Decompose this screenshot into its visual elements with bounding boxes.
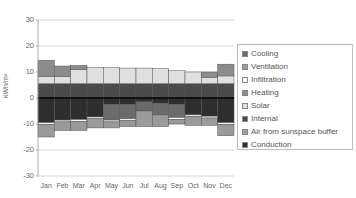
bar-segment-conduction — [185, 98, 201, 115]
bar-segment-infiltration — [71, 120, 87, 122]
bar-segment-infiltration — [185, 115, 201, 117]
y-tick-label: -20 — [0, 145, 34, 154]
bar-segment-ventilation — [103, 122, 119, 128]
bar-segment-ventilation — [152, 115, 168, 127]
bar-segment-cooling — [152, 103, 168, 115]
bar-segment-conduction — [87, 98, 103, 117]
x-tick-label: Sep — [169, 182, 185, 189]
x-tick-label: Oct — [185, 182, 201, 189]
x-tick-label: Dec — [218, 182, 234, 189]
bar-segment-infiltration — [120, 119, 136, 121]
y-tick-label: -30 — [0, 171, 34, 180]
legend-item: Internal — [242, 112, 352, 125]
legend-item: Infiltration — [242, 73, 352, 86]
bar-segment-solar — [201, 77, 217, 84]
bar-segment-ventilation — [201, 118, 217, 125]
bar-segment-ventilation — [87, 119, 103, 128]
bar-segment-solar — [152, 69, 168, 84]
bar-segment-internal — [54, 84, 70, 98]
bar-segment-solar — [169, 71, 185, 84]
legend-label: Solar — [251, 101, 270, 110]
bar-segment-ventilation — [185, 117, 201, 126]
bar-segment-internal — [87, 84, 103, 98]
legend-item: Conduction — [242, 138, 352, 151]
legend-swatch-icon — [242, 129, 248, 135]
bar-segment-infiltration — [103, 120, 119, 122]
legend-swatch-icon — [242, 77, 248, 83]
legend-label: Infiltration — [251, 75, 286, 84]
x-tick-label: Jun — [120, 182, 136, 189]
bar-segment-heating — [38, 60, 54, 76]
x-tick-label: Jan — [38, 182, 54, 189]
bar-segment-infiltration — [201, 116, 217, 118]
bar-segment-infiltration — [54, 120, 70, 122]
legend-label: Air from sunspace buffer — [251, 127, 338, 136]
bar-segment-internal — [152, 84, 168, 98]
bar-segment-internal — [120, 84, 136, 98]
bar-segment-conduction — [120, 98, 136, 105]
bar-segment-ventilation — [120, 121, 136, 127]
x-tick-label: May — [103, 182, 119, 189]
x-tick-label: Jul — [136, 182, 152, 189]
bar-segment-ventilation — [218, 125, 234, 136]
bar-segment-infiltration — [218, 123, 234, 125]
y-axis — [36, 20, 234, 176]
bar-segment-conduction — [54, 98, 70, 120]
legend-swatch-icon — [242, 103, 248, 109]
bar-segment-internal — [71, 84, 87, 98]
bar-segment-conduction — [218, 98, 234, 123]
bar-segment-internal — [103, 84, 119, 98]
legend: CoolingVentilationInfiltrationHeatingSol… — [237, 44, 353, 150]
bar-segment-solar — [54, 76, 70, 83]
bar-segment-ventilation — [136, 111, 152, 127]
legend-item: Cooling — [242, 47, 352, 60]
bar-segment-cooling — [136, 102, 152, 111]
bar-segment-cooling — [169, 105, 185, 118]
legend-label: Conduction — [251, 140, 291, 149]
x-tick-label: Nov — [201, 182, 217, 189]
bar-segment-ventilation — [38, 125, 54, 137]
bar-segment-cooling — [103, 105, 119, 121]
legend-label: Ventilation — [251, 62, 288, 71]
bar-segment-heating — [71, 66, 87, 70]
bar-segment-internal — [38, 84, 54, 98]
legend-swatch-icon — [242, 90, 248, 96]
legend-swatch-icon — [242, 51, 248, 57]
legend-item: Air from sunspace buffer — [242, 125, 352, 138]
x-tick-label: Aug — [152, 182, 168, 189]
bar-segment-internal — [185, 84, 201, 98]
bar-segment-solar — [38, 76, 54, 83]
bar-segment-solar — [103, 68, 119, 84]
y-tick-label: 20 — [0, 41, 34, 50]
bar-segment-ventilation — [54, 122, 70, 131]
bar-segment-conduction — [71, 98, 87, 120]
bar-segment-internal — [169, 84, 185, 98]
bar-segment-internal — [136, 84, 152, 98]
bar-segment-internal — [201, 84, 217, 98]
bar-segment-solar — [71, 69, 87, 83]
bar-segment-infiltration — [169, 118, 185, 120]
x-tick-label: Mar — [71, 182, 87, 189]
legend-swatch-icon — [242, 142, 248, 148]
bar-segment-infiltration — [87, 117, 103, 119]
y-tick-label: 30 — [0, 15, 34, 24]
x-tick-label: Feb — [54, 182, 70, 189]
bar-segment-solar — [120, 68, 136, 84]
bar-segment-solar — [185, 72, 201, 84]
bar-segment-cooling — [120, 105, 136, 119]
y-tick-label: -10 — [0, 119, 34, 128]
bar-segment-heating — [218, 64, 234, 76]
bar-segment-solar — [218, 76, 234, 84]
bar-segment-infiltration — [38, 123, 54, 125]
bar-segment-conduction — [169, 98, 185, 105]
bar-segment-ventilation — [169, 119, 185, 124]
y-axis-title: kWh/m² — [2, 74, 9, 98]
legend-swatch-icon — [242, 116, 248, 122]
x-tick-label: Apr — [87, 182, 103, 189]
legend-item: Solar — [242, 99, 352, 112]
legend-swatch-icon — [242, 64, 248, 70]
legend-label: Heating — [251, 88, 279, 97]
bar-segment-ventilation — [71, 121, 87, 130]
legend-label: Internal — [251, 114, 278, 123]
legend-item: Heating — [242, 86, 352, 99]
